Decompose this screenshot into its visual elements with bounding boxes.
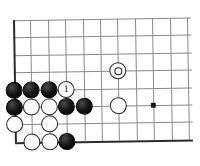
grid-line-horizontal (14, 52, 192, 56)
white-stone[interactable] (24, 133, 41, 150)
move-number-label: 1 (59, 82, 74, 97)
black-stone[interactable] (58, 98, 75, 115)
white-stone[interactable] (41, 116, 58, 133)
grid-line-horizontal (13, 35, 191, 39)
black-stone[interactable] (58, 133, 75, 150)
grid-line-horizontal (13, 18, 191, 22)
black-stone[interactable] (40, 81, 57, 98)
grid-line-horizontal (14, 70, 192, 74)
white-stone[interactable] (41, 98, 58, 115)
go-diagram: 1 (0, 0, 200, 166)
circle-mark-icon (114, 67, 122, 75)
white-stone[interactable] (6, 116, 23, 133)
white-stone[interactable] (110, 62, 127, 79)
black-stone[interactable] (23, 81, 40, 98)
black-stone[interactable] (75, 98, 92, 115)
go-board[interactable]: 1 (0, 0, 200, 166)
black-stone[interactable] (5, 81, 22, 98)
white-stone[interactable] (23, 98, 40, 115)
white-stone[interactable]: 1 (58, 80, 75, 97)
white-stone[interactable] (110, 97, 127, 114)
black-stone[interactable] (6, 99, 23, 116)
star-point (151, 103, 156, 108)
white-stone[interactable] (41, 133, 58, 150)
